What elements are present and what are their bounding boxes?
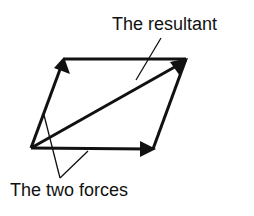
forces-leader-line-1 [44, 115, 60, 178]
resultant-label: The resultant [112, 14, 217, 35]
force-vector-1 [31, 64, 62, 148]
forces-leader-line-2 [60, 151, 88, 178]
forces-label: The two forces [10, 180, 128, 201]
force-vector-2 [31, 148, 148, 149]
